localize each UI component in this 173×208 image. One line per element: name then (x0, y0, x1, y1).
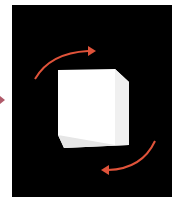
scene-panel (12, 5, 172, 197)
rotate-arrow-bottom-icon (101, 141, 155, 175)
side-arrow-marker-icon (0, 96, 5, 104)
cube-icon (58, 69, 129, 148)
rotation-scene (12, 5, 172, 197)
